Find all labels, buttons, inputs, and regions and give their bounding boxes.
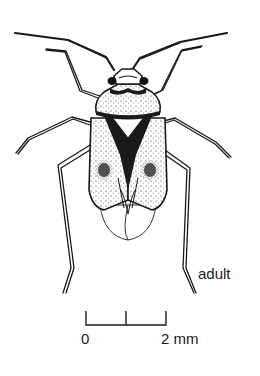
left-front-leg xyxy=(46,49,100,98)
right-middle-leg xyxy=(160,118,231,158)
stage-label: adult xyxy=(198,265,231,282)
wing-membrane xyxy=(100,205,156,240)
scale-start-label: 0 xyxy=(81,330,89,347)
insect-drawing xyxy=(0,0,260,376)
head xyxy=(108,69,149,85)
left-eye xyxy=(108,77,117,85)
right-eye xyxy=(140,77,149,85)
scale-bar xyxy=(86,311,166,325)
right-antenna xyxy=(132,33,227,70)
left-middle-leg xyxy=(16,117,90,154)
scale-end-label: 2 mm xyxy=(161,330,199,347)
left-hind-leg xyxy=(58,145,90,293)
insect-figure xyxy=(0,0,260,376)
pronotum xyxy=(96,84,161,120)
